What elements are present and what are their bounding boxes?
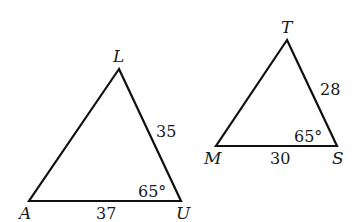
vertex-label-s: S [332,148,344,168]
triangle-tms: T M S 28 30 65° [203,17,344,168]
vertex-label-t: T [281,17,294,37]
vertex-label-l: L [112,46,124,66]
vertex-label-u: U [176,203,191,222]
angle-measure-u: 65° [138,182,166,201]
angle-measure-s: 65° [294,127,322,146]
side-length-ts: 28 [320,80,340,99]
side-length-lu: 35 [156,122,176,141]
side-length-au: 37 [96,204,116,222]
triangles-diagram: L A U 35 37 65° T M S 28 30 65° [0,0,362,222]
vertex-label-a: A [17,203,31,222]
vertex-label-m: M [203,148,222,168]
triangle-lau: L A U 35 37 65° [17,46,191,222]
side-length-ms: 30 [270,149,290,168]
